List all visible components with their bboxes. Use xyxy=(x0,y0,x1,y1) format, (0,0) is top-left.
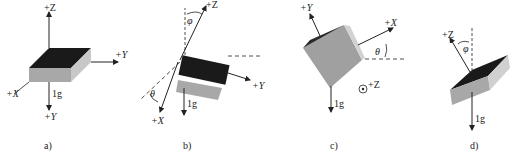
gravity-label: 1g xyxy=(334,98,344,109)
axis-label-y: +Y xyxy=(115,49,129,60)
orientation-diagram: +Z +Y +X 1g +Y a) φ +Z +Y θ +X 1g b) xyxy=(0,0,519,162)
panel-d: +Z φ 1g d) xyxy=(442,28,510,152)
caption-a: a) xyxy=(44,140,52,152)
gravity-label: 1g xyxy=(52,88,62,99)
axis-label-z: +Z xyxy=(368,79,380,90)
panel-b: φ +Z +Y θ +X 1g b) xyxy=(140,0,266,152)
angle-phi: φ xyxy=(463,43,469,54)
caption-c: c) xyxy=(330,140,338,152)
axis-label-x: +X xyxy=(151,115,165,126)
axis-label-z: +Z xyxy=(206,0,218,10)
angle-theta: θ xyxy=(375,46,380,57)
axis-label-z: +Z xyxy=(442,29,454,40)
caption-d: d) xyxy=(470,140,478,152)
axis-label-y: +Y xyxy=(300,2,314,13)
caption-b: b) xyxy=(183,140,191,152)
axis-label-x: +X xyxy=(384,17,398,28)
angle-phi: φ xyxy=(187,15,193,26)
panel-c: +Y +X θ +Z 1g c) xyxy=(300,2,405,152)
axis-label-x: +X xyxy=(6,88,20,99)
gravity-label: 1g xyxy=(187,98,197,109)
axis-label-z: +Z xyxy=(44,2,56,13)
angle-theta: θ xyxy=(150,88,155,99)
axis-label-y-down: +Y xyxy=(44,111,58,122)
axis-label-y: +Y xyxy=(252,80,266,91)
panel-a: +Z +Y +X 1g +Y a) xyxy=(6,2,129,152)
gravity-label: 1g xyxy=(475,113,485,124)
